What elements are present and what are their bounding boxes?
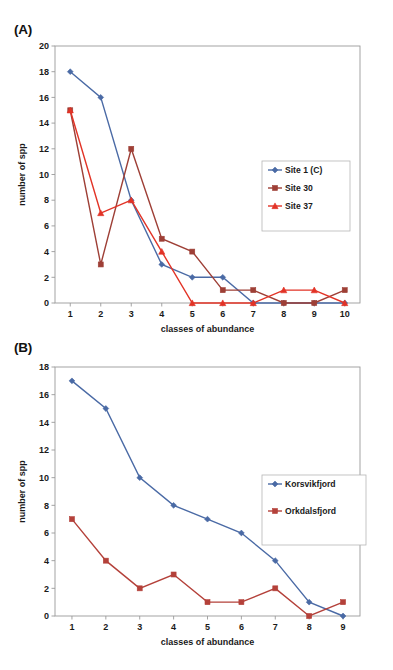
y-axis-tick-label: 16 xyxy=(39,390,49,400)
y-axis-tick-label: 2 xyxy=(44,584,49,594)
y-axis-tick-label: 14 xyxy=(39,418,49,428)
legend-label: Site 30 xyxy=(285,183,313,193)
data-point-marker xyxy=(239,600,244,605)
y-axis-tick-label: 0 xyxy=(44,298,49,308)
x-axis-tick-label: 4 xyxy=(159,309,164,319)
data-point-marker xyxy=(159,236,164,241)
figure-container: (A) 0246810121416182012345678910classes … xyxy=(0,0,393,670)
y-axis-title: number of spp xyxy=(17,143,27,206)
x-axis-tick-label: 5 xyxy=(205,622,210,632)
x-axis-tick-label: 4 xyxy=(171,622,176,632)
data-point-marker xyxy=(190,249,195,254)
y-axis-tick-label: 6 xyxy=(44,528,49,538)
y-axis-tick-label: 4 xyxy=(44,556,49,566)
data-point-marker xyxy=(281,301,286,306)
data-point-marker xyxy=(171,572,176,577)
x-axis-tick-label: 2 xyxy=(98,309,103,319)
y-axis-tick-label: 0 xyxy=(44,611,49,621)
x-axis-title: classes of abundance xyxy=(161,637,255,647)
y-axis-tick-label: 8 xyxy=(44,501,49,511)
data-point-marker xyxy=(205,600,210,605)
chart-panel-a: (A) 0246810121416182012345678910classes … xyxy=(0,0,393,338)
legend-label: Site 37 xyxy=(285,201,313,211)
data-point-marker xyxy=(312,301,317,306)
y-axis-tick-label: 10 xyxy=(39,170,49,180)
x-axis-tick-label: 9 xyxy=(341,622,346,632)
data-point-marker xyxy=(103,558,108,563)
x-axis-tick-label: 1 xyxy=(69,622,74,632)
y-axis-tick-label: 16 xyxy=(39,93,49,103)
data-point-marker xyxy=(137,586,142,591)
x-axis-tick-label: 8 xyxy=(307,622,312,632)
y-axis-tick-label: 8 xyxy=(44,195,49,205)
y-axis-title: number of spp xyxy=(17,460,27,523)
y-axis-tick-label: 4 xyxy=(44,247,49,257)
y-axis-tick-label: 10 xyxy=(39,473,49,483)
y-axis-tick-label: 18 xyxy=(39,67,49,77)
data-point-marker xyxy=(341,600,346,605)
y-axis-tick-label: 20 xyxy=(39,41,49,51)
x-axis-tick-label: 7 xyxy=(273,622,278,632)
data-point-marker xyxy=(307,614,312,619)
legend-label: Orkdalsfjord xyxy=(285,506,336,516)
y-axis-tick-label: 2 xyxy=(44,273,49,283)
chart-a-svg: 0246810121416182012345678910classes of a… xyxy=(0,0,393,338)
x-axis-tick-label: 5 xyxy=(190,309,195,319)
chart-b-svg: 024681012141618123456789classes of abund… xyxy=(0,332,393,670)
data-point-marker xyxy=(251,288,256,293)
x-axis-tick-label: 6 xyxy=(239,622,244,632)
x-axis-tick-label: 6 xyxy=(220,309,225,319)
chart-panel-b: (B) 024681012141618123456789classes of a… xyxy=(0,332,393,670)
x-axis-tick-label: 3 xyxy=(137,622,142,632)
data-point-marker xyxy=(69,517,74,522)
x-axis-tick-label: 10 xyxy=(340,309,350,319)
data-point-marker xyxy=(98,262,103,267)
y-axis-tick-label: 6 xyxy=(44,221,49,231)
data-point-marker xyxy=(273,186,278,191)
data-point-marker xyxy=(220,288,225,293)
data-point-marker xyxy=(273,509,278,514)
y-axis-tick-label: 18 xyxy=(39,362,49,372)
legend-label: Korsvikfjord xyxy=(285,479,336,489)
y-axis-tick-label: 12 xyxy=(39,144,49,154)
x-axis-tick-label: 3 xyxy=(129,309,134,319)
data-point-marker xyxy=(129,146,134,151)
x-axis-tick-label: 1 xyxy=(68,309,73,319)
data-point-marker xyxy=(273,586,278,591)
y-axis-tick-label: 12 xyxy=(39,445,49,455)
data-point-marker xyxy=(342,288,347,293)
x-axis-tick-label: 9 xyxy=(312,309,317,319)
legend-label: Site 1 (C) xyxy=(285,165,322,175)
x-axis-tick-label: 8 xyxy=(281,309,286,319)
x-axis-tick-label: 2 xyxy=(103,622,108,632)
x-axis-tick-label: 7 xyxy=(251,309,256,319)
y-axis-tick-label: 14 xyxy=(39,118,49,128)
